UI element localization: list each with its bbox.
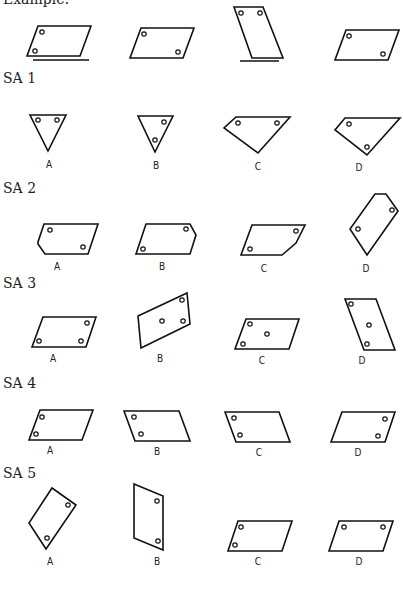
sa5-option-d-label: D xyxy=(356,556,363,567)
sa3-option-a[interactable]: A xyxy=(32,317,96,364)
sa2-option-a[interactable]: A xyxy=(38,224,98,272)
sa3-option-b-label: B xyxy=(157,353,163,364)
sa5-option-a[interactable]: A xyxy=(29,488,76,567)
sa1-option-b-label: B xyxy=(153,160,159,171)
sa5-option-b[interactable]: B xyxy=(134,484,163,567)
sa4-option-a-label: A xyxy=(47,445,54,456)
sa1-option-a[interactable]: A xyxy=(30,115,66,170)
sa2-option-b[interactable]: B xyxy=(136,224,196,272)
sa4-option-d-label: D xyxy=(355,447,362,458)
sa5-option-d[interactable]: D xyxy=(329,521,393,567)
sa4-option-c[interactable]: C xyxy=(225,412,290,458)
sa2-option-a-label: A xyxy=(54,261,61,272)
sa3-option-d[interactable]: D xyxy=(345,299,395,366)
sa1-option-b[interactable]: B xyxy=(138,116,173,171)
sa5-option-b-label: B xyxy=(154,556,160,567)
sa5-option-c[interactable]: C xyxy=(228,521,292,567)
example-figure-1 xyxy=(27,26,91,60)
sa4-option-d[interactable]: D xyxy=(331,412,395,458)
sa1-option-a-label: A xyxy=(46,159,53,170)
sa2-option-b-label: B xyxy=(159,261,165,272)
sa2-option-d-label: D xyxy=(363,263,370,274)
sa1-option-c-label: C xyxy=(255,161,261,172)
sa1-option-d[interactable]: D xyxy=(335,118,400,173)
sa5-option-a-label: A xyxy=(47,556,54,567)
sa2-option-c-label: C xyxy=(261,263,267,274)
sa3-option-b[interactable]: B xyxy=(138,293,190,364)
sa1-option-d-label: D xyxy=(356,162,363,173)
example-figure-4 xyxy=(335,30,399,60)
sa4-option-b-label: B xyxy=(154,446,160,457)
sa3-option-d-label: D xyxy=(359,355,366,366)
sa2-option-d[interactable]: D xyxy=(350,194,398,274)
sa4-option-c-label: C xyxy=(256,447,262,458)
example-figure-3 xyxy=(234,7,283,61)
example-figure-2 xyxy=(130,28,194,58)
sa4-option-a[interactable]: A xyxy=(29,410,93,456)
sa1-option-c[interactable]: C xyxy=(224,117,290,172)
sa3-option-c[interactable]: C xyxy=(235,319,299,366)
sa4-option-b[interactable]: B xyxy=(124,411,190,457)
sa2-option-c[interactable]: C xyxy=(241,225,305,274)
figures-canvas: A B C D A B C D xyxy=(0,0,403,597)
sa3-option-c-label: C xyxy=(259,355,265,366)
sa3-option-a-label: A xyxy=(50,353,57,364)
sa5-option-c-label: C xyxy=(255,556,261,567)
